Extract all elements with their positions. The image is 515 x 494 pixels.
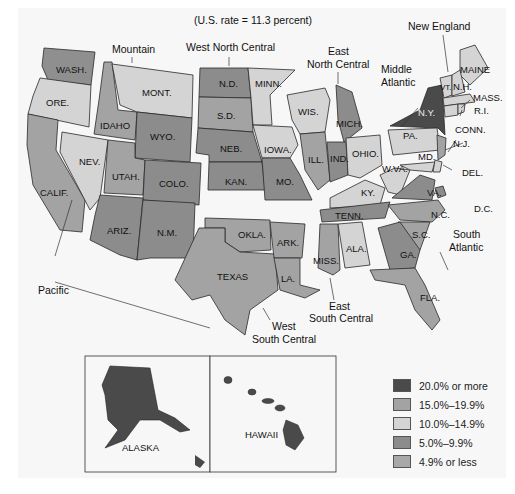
legend-label: 15.0%–19.9%	[419, 399, 484, 411]
state-label-nd: N.D.	[219, 78, 238, 89]
state-label-ark: ARK.	[277, 237, 299, 248]
state-label-calif: CALIF.	[40, 187, 69, 198]
region-label-west-north-central: West North Central	[186, 41, 275, 53]
region-label-west-south-central-2: South Central	[252, 333, 316, 345]
legend-label: 10.0%–14.9%	[419, 418, 484, 430]
legend-item: 5.0%–9.9%	[393, 433, 488, 452]
region-label-middle-atlantic-2: Atlantic	[381, 76, 415, 88]
state-label-ga: GA.	[400, 249, 416, 260]
legend-swatch-5	[393, 436, 411, 449]
state-label-dc: D.C.	[474, 203, 493, 214]
state-label-va: VA.	[427, 187, 442, 198]
state-conn[interactable]	[444, 104, 458, 117]
legend-item: 15.0%–19.9%	[393, 395, 488, 414]
state-label-utah: UTAH.	[112, 171, 140, 182]
state-label-wva: W.VA.	[382, 163, 408, 174]
legend-item: 20.0% or more	[393, 376, 488, 395]
state-label-ariz: ARIZ.	[107, 225, 131, 236]
state-label-colo: COLO.	[159, 178, 189, 189]
state-label-nev: NEV.	[79, 156, 100, 167]
state-label-pa: PA.	[403, 130, 418, 141]
state-label-idaho: IDAHO	[100, 120, 130, 131]
region-label-west-south-central-1: West	[272, 320, 296, 332]
legend-swatch-15	[393, 398, 411, 411]
legend-label: 4.9% or less	[419, 456, 477, 468]
state-label-miss: MISS.	[313, 255, 339, 266]
region-label-pacific: Pacific	[38, 284, 69, 296]
state-label-nh: N.H.	[453, 81, 472, 92]
state-mich[interactable]	[336, 85, 362, 142]
state-label-conn: CONN.	[455, 124, 486, 135]
state-label-ri: R.I.	[474, 105, 489, 116]
legend-swatch-20	[393, 379, 411, 392]
state-label-wis: WIS.	[298, 106, 319, 117]
state-label-nm: N.M.	[157, 227, 177, 238]
state-label-tenn: TENN.	[335, 210, 364, 221]
state-miss[interactable]	[318, 224, 340, 275]
state-label-ala: ALA.	[346, 243, 367, 254]
state-label-kan: KAN.	[225, 176, 247, 187]
state-label-sc: S.C.	[412, 229, 430, 240]
state-label-sd: S.D.	[217, 110, 235, 121]
state-label-mich: MICH.	[336, 118, 363, 129]
state-label-ky: KY.	[361, 187, 375, 198]
region-label-mountain: Mountain	[112, 43, 155, 55]
state-label-hawaii: HAWAII	[245, 429, 278, 440]
state-label-ohio: OHIO.	[352, 148, 379, 159]
map-subtitle: (U.S. rate = 11.3 percent)	[194, 14, 312, 26]
region-label-south-atlantic-2: Atlantic	[449, 241, 483, 253]
state-label-maine: MAINE	[460, 64, 490, 75]
state-label-texas: TEXAS	[217, 271, 248, 282]
legend-item: 4.9% or less	[393, 452, 488, 471]
state-label-mass: MASS.	[473, 92, 503, 103]
region-label-east-north-central-2: North Central	[307, 58, 369, 70]
state-label-okla: OKLA.	[238, 229, 266, 240]
state-label-ny: N.Y.	[418, 107, 435, 118]
region-label-east-north-central-1: East	[328, 45, 349, 57]
legend-swatch-10	[393, 417, 411, 430]
legend-label: 5.0%–9.9%	[419, 437, 473, 449]
state-label-ore: ORE.	[46, 97, 69, 108]
state-label-alaska: ALASKA	[122, 442, 160, 453]
region-label-new-england: New England	[408, 20, 471, 32]
state-label-mont: MONT.	[142, 87, 172, 98]
legend-label: 20.0% or more	[419, 380, 488, 392]
state-label-nc: N.C.	[431, 209, 450, 220]
state-label-la: LA.	[281, 273, 295, 284]
state-label-del: DEL.	[462, 167, 483, 178]
region-label-middle-atlantic-1: Middle	[381, 63, 412, 75]
state-nj[interactable]	[437, 135, 446, 160]
state-label-neb: NEB.	[220, 143, 242, 154]
region-label-east-south-central-1: East	[329, 300, 350, 312]
state-label-wyo: WYO.	[150, 131, 175, 142]
legend-swatch-4	[393, 455, 411, 468]
legend-item: 10.0%–14.9%	[393, 414, 488, 433]
state-label-nj: N.J.	[453, 138, 470, 149]
region-label-east-south-central-2: South Central	[309, 312, 373, 324]
state-label-md: MD.	[418, 151, 435, 162]
state-label-mo: MO.	[276, 176, 294, 187]
state-label-fla: FLA.	[420, 292, 440, 303]
legend: 20.0% or more 15.0%–19.9% 10.0%–14.9% 5.…	[393, 376, 488, 471]
state-label-minn: MINN.	[255, 78, 282, 89]
state-label-ind: IND.	[330, 153, 349, 164]
state-label-ill: ILL.	[308, 154, 324, 165]
state-label-iowa: IOWA.	[264, 144, 292, 155]
region-label-south-atlantic-1: South	[453, 228, 481, 240]
state-label-vt: VT.	[440, 83, 452, 92]
state-label-wash: WASH.	[56, 64, 87, 75]
